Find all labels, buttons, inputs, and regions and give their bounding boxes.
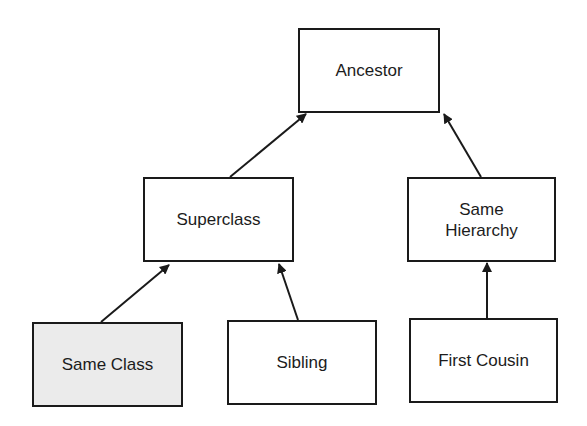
node-first-cousin-label: First Cousin [438,350,529,371]
node-superclass: Superclass [143,177,294,262]
node-sibling-label: Sibling [276,352,327,373]
node-same-hierarchy-label: Same Hierarchy [445,199,518,241]
node-same-class-label: Same Class [62,354,154,375]
node-ancestor-label: Ancestor [335,60,402,81]
node-ancestor: Ancestor [298,28,440,113]
node-sibling: Sibling [227,320,377,405]
inheritance-diagram: Ancestor Superclass Same Hierarchy Same … [0,0,587,426]
node-same-hierarchy: Same Hierarchy [407,177,556,262]
node-first-cousin: First Cousin [409,318,558,403]
arrow-sibling-to-superclass [279,264,298,320]
node-superclass-label: Superclass [176,209,260,230]
arrow-same-hierarchy-to-ancestor [444,114,481,177]
node-same-class: Same Class [32,322,183,407]
arrow-same-class-to-superclass [101,265,169,322]
arrow-superclass-to-ancestor [230,114,306,177]
